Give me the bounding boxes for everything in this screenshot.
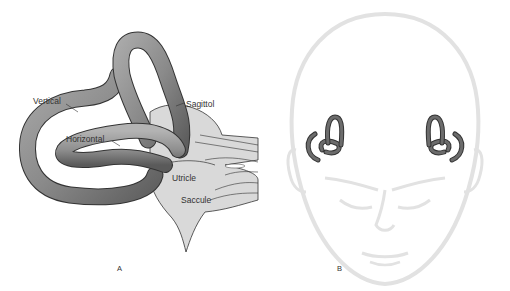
- label-vertical: Vertical: [33, 96, 61, 106]
- panel-a-semicircular-canals: Vertical Horizontal Sagittol Utricle Sac…: [0, 0, 260, 291]
- right-brow: [392, 178, 445, 190]
- head-illustration: [260, 0, 510, 291]
- mouth: [362, 253, 408, 257]
- label-horizontal: Horizontal: [66, 134, 104, 144]
- panel-letter-a: A: [117, 264, 122, 273]
- nose: [376, 190, 394, 230]
- panel-b-head-orientation: B: [260, 0, 510, 291]
- panel-letter-b: B: [337, 264, 342, 273]
- label-saccule: Saccule: [181, 195, 211, 205]
- left-ear-canals: [308, 117, 342, 160]
- label-sagittal: Sagittol: [186, 99, 214, 109]
- canals-illustration: [0, 0, 260, 291]
- left-brow: [325, 178, 378, 190]
- left-eye: [340, 200, 372, 208]
- right-ear-canals: [428, 117, 462, 160]
- label-utricle: Utricle: [172, 173, 196, 183]
- right-eye: [398, 200, 430, 208]
- vestibular-sacs: [150, 105, 258, 252]
